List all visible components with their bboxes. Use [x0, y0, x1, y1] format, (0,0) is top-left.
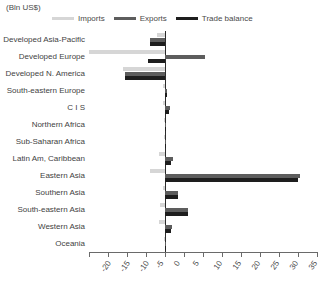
bar-imports: [163, 101, 165, 105]
bar-imports: [157, 33, 165, 37]
axis-tick: [146, 252, 147, 257]
bar-trade-balance: [125, 76, 165, 80]
bar-trade-balance: [165, 212, 188, 216]
legend-item-imports: Imports: [52, 14, 105, 23]
axis-tick: [184, 252, 185, 257]
axis-tick: [298, 252, 299, 257]
bar-group: [89, 235, 317, 252]
bar-exports: [165, 55, 205, 59]
value-axis: -20-15-10-50510152025303540: [89, 252, 317, 283]
bar-trade-balance: [165, 110, 169, 114]
axis-tick: [89, 252, 90, 257]
bar-exports: [165, 174, 300, 178]
bar-imports: [150, 169, 165, 173]
axis-tick-label: 15: [231, 259, 243, 271]
bar-group: [89, 184, 317, 201]
bar-exports: [165, 106, 170, 110]
category-label: Southern Asia: [35, 188, 85, 197]
axis-tick-label: -5: [154, 259, 165, 270]
category-label: South-eastern Europe: [7, 86, 85, 95]
category-label: Sub-Saharan Africa: [16, 137, 85, 146]
category-axis-labels: Developed Asia-PacificDeveloped EuropeDe…: [0, 31, 89, 252]
axis-tick: [108, 252, 109, 257]
legend-label-trade_balance: Trade balance: [202, 14, 253, 23]
bar-imports: [159, 152, 165, 156]
axis-tick-label: 30: [288, 259, 300, 271]
bar-exports: [125, 72, 165, 76]
bar-group: [89, 65, 317, 82]
bar-exports: [165, 225, 172, 229]
axis-tick: [127, 252, 128, 257]
axis-tick-label: 25: [269, 259, 281, 271]
bar-imports: [164, 237, 165, 241]
category-label: Developed Asia-Pacific: [3, 35, 85, 44]
bar-group: [89, 133, 317, 150]
axis-tick-label: -10: [137, 259, 151, 274]
bar-imports: [159, 220, 165, 224]
bar-exports: [165, 191, 178, 195]
bar-group: [89, 167, 317, 184]
bar-trade-balance: [165, 161, 171, 165]
bar-imports: [163, 84, 165, 88]
axis-tick: [317, 252, 318, 257]
bar-trade-balance: [165, 246, 166, 250]
bar-imports: [163, 186, 165, 190]
axis-tick: [241, 252, 242, 257]
bar-group: [89, 150, 317, 167]
bar-group: [89, 116, 317, 133]
category-label: Western Asia: [38, 222, 85, 231]
bar-trade-balance: [150, 42, 165, 46]
bar-group: [89, 48, 317, 65]
legend-item-trade_balance: Trade balance: [176, 14, 253, 23]
axis-tick-label: -15: [118, 259, 132, 274]
trade-balance-chart: (Bln US$) ImportsExportsTrade balance De…: [0, 0, 321, 283]
axis-tick: [203, 252, 204, 257]
bar-exports: [165, 140, 166, 144]
legend-swatch-exports: [114, 17, 136, 20]
category-label: Latin Am, Caribbean: [13, 154, 86, 163]
bar-exports: [150, 38, 165, 42]
axis-tick-label: 10: [212, 259, 224, 271]
legend-item-exports: Exports: [114, 14, 167, 23]
category-label: Developed Europe: [19, 52, 85, 61]
bar-trade-balance: [165, 178, 298, 182]
bar-exports: [165, 157, 173, 161]
legend-swatch-trade_balance: [176, 17, 198, 20]
units-label: (Bln US$): [6, 3, 41, 12]
bar-imports: [164, 118, 165, 122]
bar-imports: [89, 50, 165, 54]
category-label: Developed N. America: [5, 69, 85, 78]
plot-area: Developed Asia-PacificDeveloped EuropeDe…: [0, 31, 321, 252]
bar-trade-balance: [148, 59, 165, 63]
axis-tick-label: 0: [172, 259, 182, 268]
axis-tick: [279, 252, 280, 257]
bar-group: [89, 31, 317, 48]
bar-imports: [123, 67, 165, 71]
category-label: South-eastern Asia: [17, 205, 85, 214]
axis-tick-label: 5: [191, 259, 201, 268]
bar-group: [89, 201, 317, 218]
axis-tick-label: 35: [307, 259, 319, 271]
bar-exports: [165, 89, 167, 93]
bar-group: [89, 99, 317, 116]
category-label: C I S: [67, 103, 85, 112]
axis-tick: [222, 252, 223, 257]
bar-exports: [165, 208, 188, 212]
bar-group: [89, 218, 317, 235]
category-label: Eastern Asia: [40, 171, 85, 180]
bar-trade-balance: [165, 93, 167, 97]
bar-imports: [160, 203, 165, 207]
axis-tick-label: 20: [250, 259, 262, 271]
axis-tick: [260, 252, 261, 257]
bar-trade-balance: [165, 195, 178, 199]
bar-exports: [165, 123, 166, 127]
bar-trade-balance: [165, 127, 166, 131]
category-label: Oceania: [55, 239, 85, 248]
bar-exports: [165, 242, 166, 246]
chart-legend: ImportsExportsTrade balance: [52, 14, 253, 23]
legend-label-exports: Exports: [140, 14, 167, 23]
bar-group: [89, 82, 317, 99]
axis-tick: [165, 252, 166, 257]
bars-area: [89, 31, 317, 252]
bar-trade-balance: [165, 229, 171, 233]
